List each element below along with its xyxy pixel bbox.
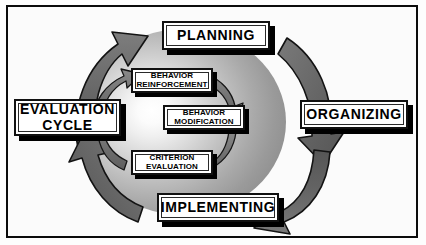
behavior-modification-label: BEHAVIOR MODIFICATION bbox=[174, 109, 233, 126]
stage-box-organizing[interactable]: ORGANIZING bbox=[300, 100, 408, 129]
inner-box-behavior-reinforcement[interactable]: BEHAVIOR REINFORCEMENT bbox=[131, 68, 213, 93]
evaluation-cycle-label-line1: EVALUATION bbox=[20, 101, 115, 117]
behavior-modification-label-line2: MODIFICATION bbox=[174, 117, 233, 126]
criterion-evaluation-label-line2: EVALUATION bbox=[146, 162, 198, 171]
stage-box-evaluation-cycle[interactable]: EVALUATION CYCLE bbox=[14, 99, 121, 136]
diagram-canvas: PLANNING ORGANIZING IMPLEMENTING EVALUAT… bbox=[0, 0, 426, 245]
stage-box-planning[interactable]: PLANNING bbox=[162, 21, 270, 50]
behavior-reinforcement-label-line2: REINFORCEMENT bbox=[136, 80, 207, 89]
organizing-label: ORGANIZING bbox=[306, 107, 401, 122]
evaluation-cycle-label-line2: CYCLE bbox=[42, 117, 92, 133]
implementing-label: IMPLEMENTING bbox=[161, 200, 276, 215]
stage-box-implementing[interactable]: IMPLEMENTING bbox=[157, 193, 279, 222]
evaluation-cycle-label: EVALUATION CYCLE bbox=[20, 102, 115, 132]
inner-box-criterion-evaluation[interactable]: CRITERION EVALUATION bbox=[131, 150, 213, 175]
behavior-reinforcement-label: BEHAVIOR REINFORCEMENT bbox=[136, 72, 207, 89]
planning-label: PLANNING bbox=[177, 28, 255, 43]
criterion-evaluation-label: CRITERION EVALUATION bbox=[146, 154, 198, 171]
inner-box-behavior-modification[interactable]: BEHAVIOR MODIFICATION bbox=[163, 105, 245, 130]
diagram-stage: PLANNING ORGANIZING IMPLEMENTING EVALUAT… bbox=[0, 0, 426, 245]
